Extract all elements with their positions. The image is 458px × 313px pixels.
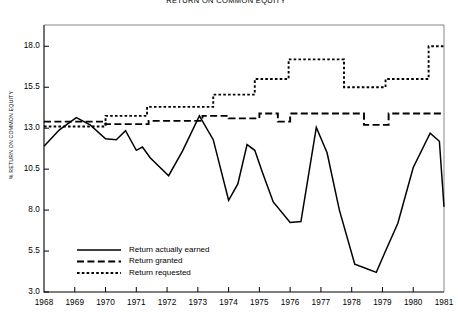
x-tick-label: 1981 [424,298,458,307]
y-tick-label: 18.0 [14,41,40,50]
y-tick-label: 13.0 [14,123,40,132]
y-tick-label: 3.0 [14,287,40,296]
legend-swatches [77,250,121,273]
y-tick-label: 15.5 [14,82,40,91]
legend-label: Return requested [129,268,191,277]
chart-title: RETURN ON COMMON EQUITY [0,0,452,5]
legend-label: Return actually earned [129,245,210,254]
y-tick-label: 10.5 [14,164,40,173]
y-tick-label: 8.0 [14,205,40,214]
y-axis-title: % RETURN ON COMMON EQUITY [8,80,14,190]
series-line [44,116,444,272]
series-line [44,46,444,126]
y-tick-label: 5.5 [14,246,40,255]
series-line [44,113,444,124]
legend-label: Return granted [129,256,182,265]
data-series-group [44,46,444,272]
